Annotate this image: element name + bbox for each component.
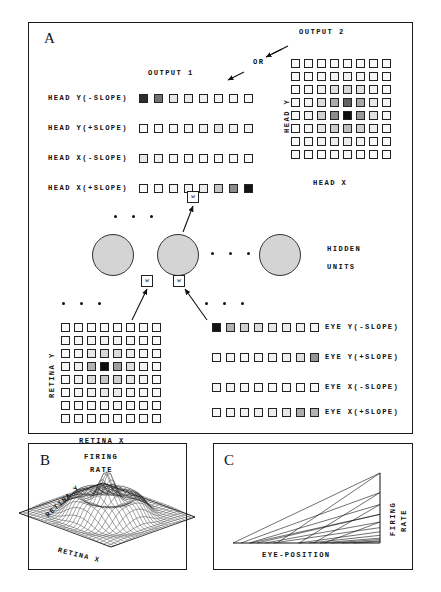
output2-unit[interactable]	[291, 150, 300, 159]
output2-unit[interactable]	[382, 111, 391, 120]
head-unit[interactable]	[244, 184, 253, 193]
weight-box-output[interactable]: w	[187, 191, 199, 203]
retina-unit[interactable]	[100, 336, 109, 345]
retina-unit[interactable]	[100, 362, 109, 371]
head-unit[interactable]	[214, 184, 223, 193]
output2-unit[interactable]	[356, 85, 365, 94]
output2-unit[interactable]	[330, 137, 339, 146]
head-unit[interactable]	[184, 124, 193, 133]
retina-unit[interactable]	[87, 401, 96, 410]
eye-unit[interactable]	[212, 353, 221, 362]
output2-unit[interactable]	[356, 150, 365, 159]
output2-unit[interactable]	[382, 124, 391, 133]
output2-unit[interactable]	[304, 72, 313, 81]
output2-unit[interactable]	[330, 59, 339, 68]
retina-unit[interactable]	[126, 401, 135, 410]
eye-unit[interactable]	[240, 323, 249, 332]
retina-unit[interactable]	[113, 349, 122, 358]
retina-unit[interactable]	[126, 388, 135, 397]
retina-unit[interactable]	[61, 362, 70, 371]
head-unit[interactable]	[244, 154, 253, 163]
head-unit[interactable]	[184, 154, 193, 163]
retina-unit[interactable]	[152, 388, 161, 397]
output2-unit[interactable]	[317, 98, 326, 107]
output2-unit[interactable]	[343, 137, 352, 146]
output2-unit[interactable]	[369, 98, 378, 107]
retina-unit[interactable]	[61, 388, 70, 397]
head-unit[interactable]	[214, 154, 223, 163]
output2-unit[interactable]	[330, 124, 339, 133]
eye-unit[interactable]	[212, 408, 221, 417]
retina-unit[interactable]	[100, 349, 109, 358]
retina-unit[interactable]	[74, 323, 83, 332]
output2-unit[interactable]	[304, 124, 313, 133]
output2-unit[interactable]	[343, 150, 352, 159]
head-unit[interactable]	[229, 154, 238, 163]
retina-unit[interactable]	[74, 362, 83, 371]
head-unit[interactable]	[154, 184, 163, 193]
eye-unit[interactable]	[212, 383, 221, 392]
retina-unit[interactable]	[139, 388, 148, 397]
retina-unit[interactable]	[74, 401, 83, 410]
eye-unit[interactable]	[282, 383, 291, 392]
retina-unit[interactable]	[100, 323, 109, 332]
eye-unit[interactable]	[282, 408, 291, 417]
output2-unit[interactable]	[382, 59, 391, 68]
eye-unit[interactable]	[282, 323, 291, 332]
retina-unit[interactable]	[152, 401, 161, 410]
retina-unit[interactable]	[113, 323, 122, 332]
eye-unit[interactable]	[310, 383, 319, 392]
head-unit[interactable]	[184, 94, 193, 103]
head-unit[interactable]	[139, 184, 148, 193]
head-unit[interactable]	[169, 94, 178, 103]
retina-grid[interactable]	[59, 321, 163, 425]
output2-unit[interactable]	[356, 137, 365, 146]
output2-unit[interactable]	[291, 85, 300, 94]
eye-unit[interactable]	[296, 353, 305, 362]
head-unit[interactable]	[154, 94, 163, 103]
hidden-unit-3[interactable]	[259, 234, 301, 276]
head-unit[interactable]	[229, 184, 238, 193]
retina-unit[interactable]	[113, 388, 122, 397]
retina-unit[interactable]	[61, 323, 70, 332]
output2-unit[interactable]	[291, 111, 300, 120]
head-unit[interactable]	[169, 124, 178, 133]
output2-unit[interactable]	[369, 59, 378, 68]
eye-unit[interactable]	[226, 383, 235, 392]
output2-head-grid[interactable]	[289, 57, 393, 161]
output2-unit[interactable]	[369, 124, 378, 133]
retina-unit[interactable]	[74, 375, 83, 384]
output2-unit[interactable]	[291, 124, 300, 133]
retina-unit[interactable]	[139, 349, 148, 358]
retina-unit[interactable]	[74, 349, 83, 358]
retina-unit[interactable]	[100, 388, 109, 397]
head-unit[interactable]	[199, 124, 208, 133]
retina-unit[interactable]	[87, 388, 96, 397]
retina-unit[interactable]	[100, 375, 109, 384]
output2-unit[interactable]	[317, 111, 326, 120]
output2-unit[interactable]	[330, 150, 339, 159]
output2-unit[interactable]	[382, 72, 391, 81]
retina-unit[interactable]	[87, 323, 96, 332]
retina-unit[interactable]	[139, 362, 148, 371]
output2-unit[interactable]	[369, 150, 378, 159]
eye-unit[interactable]	[310, 323, 319, 332]
output2-unit[interactable]	[304, 98, 313, 107]
retina-unit[interactable]	[61, 375, 70, 384]
output2-unit[interactable]	[369, 85, 378, 94]
eye-unit[interactable]	[212, 323, 221, 332]
retina-unit[interactable]	[100, 401, 109, 410]
head-unit[interactable]	[154, 124, 163, 133]
eye-unit[interactable]	[226, 408, 235, 417]
eye-unit[interactable]	[296, 383, 305, 392]
output2-unit[interactable]	[382, 85, 391, 94]
retina-unit[interactable]	[61, 401, 70, 410]
head-unit[interactable]	[229, 94, 238, 103]
head-unit[interactable]	[139, 94, 148, 103]
retina-unit[interactable]	[126, 336, 135, 345]
retina-unit[interactable]	[126, 414, 135, 423]
head-unit[interactable]	[244, 94, 253, 103]
output2-unit[interactable]	[291, 59, 300, 68]
weight-box-input-left[interactable]: w	[141, 275, 153, 287]
retina-unit[interactable]	[152, 336, 161, 345]
